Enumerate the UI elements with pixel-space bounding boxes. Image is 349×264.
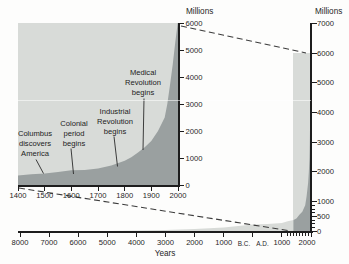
tick [312,112,317,113]
annotation-line: Industrial [87,107,143,117]
tick [180,50,184,51]
annotation-line: Revolution [87,117,143,127]
tick [312,212,315,213]
inset-x-tick-label: 1800 [112,191,138,200]
inset-x-tick-label: 2000 [165,191,191,200]
tick [312,227,315,228]
tick [194,233,195,237]
inset-y-tick-label: 6000 [186,19,203,28]
annotation-line: begins [52,139,96,149]
tick [290,233,291,236]
main-y-axis-title: Millions [315,7,342,16]
tick [305,233,306,236]
inset-x-axis-line [18,185,180,187]
main-x-tick-label: 4000 [122,238,150,247]
main-x-tick-label: 2000 [293,238,321,247]
tick [281,233,282,237]
tick [223,233,224,237]
tick [312,209,315,210]
inset-y-tick-label: 2000 [186,127,203,136]
population-growth-figure: Millions 6000 5000 4000 3000 2000 1000 0… [0,0,349,264]
tick [299,233,300,236]
tick [312,216,317,217]
annotation-line: begins [115,88,171,98]
inset-y-axis-title: Millions [186,7,213,16]
main-x-tick-label: 6000 [64,238,92,247]
main-y-tick-label: 1000 [317,197,334,206]
tick [312,231,317,232]
tick [293,233,294,236]
tick [311,233,312,237]
main-x-tick-label: 5000 [93,238,121,247]
inset-y-tick-label: 1000 [186,154,203,163]
inset-y-tick-label: 0 [186,181,190,190]
inset-x-tick-label: 1500 [32,191,58,200]
main-y-tick-label: 5000 [317,78,334,87]
annotation-line: Medical [115,68,171,78]
inset-y-tick-label: 4000 [186,73,203,82]
tick [252,233,253,237]
tick [308,233,309,236]
tick [312,171,317,172]
inset-x-tick-label: 1700 [85,191,111,200]
tick [165,233,166,237]
inset-y-tick-label: 5000 [186,46,203,55]
main-x-axis-title: Years [145,249,185,258]
tick [78,233,79,237]
tick [312,53,317,54]
main-y-tick-label: 4000 [317,108,334,117]
tick [180,77,184,78]
main-x-tick-label: 8000 [6,238,34,247]
tick [312,82,317,83]
main-x-tick-label: 3000 [152,238,180,247]
tick [49,233,50,237]
main-x-tick-label: 2000 [181,238,209,247]
tick [180,23,184,24]
inset-x-tick-label: 1400 [5,191,31,200]
tick [180,131,184,132]
annotation-medical: Medical Revolution begins [115,68,171,98]
scan-artifact-line [17,100,311,101]
tick [180,185,184,186]
annotation-industrial: Industrial Revolution begins [87,107,143,137]
main-x-tick-label: 7000 [35,238,63,247]
main-y-tick-label: 3000 [317,138,334,147]
tick [302,233,303,236]
tick [312,205,315,206]
tick [312,223,315,224]
tick [312,23,317,24]
tick [20,233,21,237]
annotation-line: America [8,149,62,159]
tick [287,233,288,236]
tick [136,233,137,237]
main-y-tick-label: 6000 [317,49,334,58]
annotation-line: begins [87,127,143,137]
tick [312,201,317,202]
tick [296,233,297,236]
annotation-line: Revolution [115,78,171,88]
main-y-tick-label: 500 [317,212,330,221]
tick [312,220,315,221]
inset-x-tick-label: 1600 [58,191,84,200]
main-x-tick-label: 1000 [268,238,296,247]
tick [312,142,317,143]
tick [180,104,184,105]
main-y-tick-label: 7000 [317,19,334,28]
inset-y-tick-label: 3000 [186,100,203,109]
tick [107,233,108,237]
main-y-tick-label: 0 [317,227,321,236]
tick [180,158,184,159]
main-y-tick-label: 2000 [317,167,334,176]
inset-x-tick-label: 1900 [138,191,164,200]
